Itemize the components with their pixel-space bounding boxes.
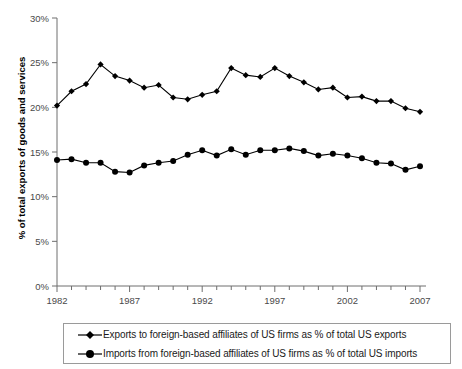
data-point — [112, 169, 118, 175]
legend-item-imports: Imports from foreign-based affiliates of… — [64, 344, 450, 363]
x-tick-label: 1987 — [119, 295, 140, 306]
y-tick-label: 20% — [30, 102, 50, 113]
x-tick-label: 2002 — [337, 295, 358, 306]
data-point — [243, 152, 249, 158]
chart-legend: Exports to foreign-based affiliates of U… — [63, 323, 451, 364]
y-tick-label: 15% — [30, 147, 50, 158]
data-point — [199, 92, 205, 98]
y-tick-label: 5% — [35, 236, 49, 247]
diamond-marker-icon — [77, 329, 103, 341]
data-point — [417, 109, 423, 115]
data-point — [214, 153, 220, 159]
data-point — [228, 65, 234, 71]
data-point — [272, 65, 278, 71]
y-tick-label: 25% — [30, 57, 50, 68]
legend-label-imports: Imports from foreign-based affiliates of… — [103, 348, 417, 359]
x-tick-label: 1992 — [192, 295, 213, 306]
data-point — [402, 167, 408, 173]
data-point — [359, 155, 365, 161]
data-point — [214, 88, 220, 94]
data-point — [170, 158, 176, 164]
legend-item-exports: Exports to foreign-based affiliates of U… — [64, 325, 450, 344]
x-tick-label: 2007 — [409, 295, 430, 306]
data-point — [373, 160, 379, 166]
x-tick-label: 1982 — [46, 295, 67, 306]
data-point — [286, 145, 292, 151]
data-point — [286, 73, 292, 79]
data-point — [127, 170, 133, 176]
data-point — [402, 105, 408, 111]
y-tick-label: 0% — [35, 281, 49, 292]
data-point — [301, 148, 307, 154]
data-point — [228, 146, 234, 152]
data-point — [199, 147, 205, 153]
data-point — [257, 147, 263, 153]
data-point — [344, 94, 350, 100]
data-point — [373, 98, 379, 104]
data-point — [141, 85, 147, 91]
data-point — [344, 153, 350, 159]
y-tick-label: 10% — [30, 191, 50, 202]
data-point — [83, 160, 89, 166]
data-point — [54, 157, 60, 163]
data-point — [330, 85, 336, 91]
data-point — [301, 79, 307, 85]
data-point — [185, 96, 191, 102]
data-point — [127, 77, 133, 83]
data-point — [185, 152, 191, 158]
data-point — [315, 153, 321, 159]
data-point — [156, 160, 162, 166]
data-point — [272, 147, 278, 153]
y-tick-label: 30% — [30, 13, 50, 24]
chart-figure: % of total exports of goods and services… — [0, 0, 462, 369]
data-point — [388, 161, 394, 167]
plot-area: 0%5%10%15%20%25%30%198219871992199720022… — [0, 0, 462, 320]
x-tick-label: 1997 — [264, 295, 285, 306]
data-point — [69, 156, 75, 162]
series-exports — [54, 61, 423, 115]
data-point — [315, 86, 321, 92]
data-point — [141, 162, 147, 168]
series-imports — [54, 145, 423, 175]
data-point — [243, 72, 249, 78]
data-point — [330, 151, 336, 157]
legend-label-exports: Exports to foreign-based affiliates of U… — [103, 329, 406, 340]
circle-marker-icon — [77, 348, 103, 360]
data-point — [359, 94, 365, 100]
data-point — [388, 98, 394, 104]
data-point — [417, 163, 423, 169]
data-point — [98, 160, 104, 166]
data-point — [257, 74, 263, 80]
